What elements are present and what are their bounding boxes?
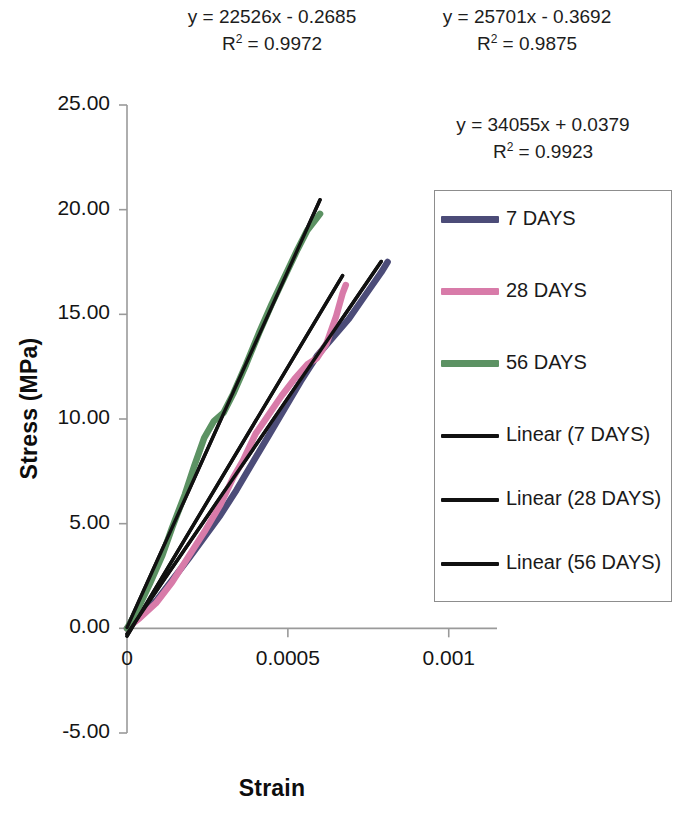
legend-item-label: Linear (7 DAYS) [506, 423, 650, 447]
legend-item[interactable]: 56 DAYS [441, 351, 667, 375]
legend-item[interactable]: Linear (56 DAYS) [441, 551, 667, 575]
legend-swatch-icon [441, 498, 499, 502]
x-axis-tick-label: 0.0005 [228, 646, 348, 670]
legend-item[interactable]: 7 DAYS [441, 207, 667, 231]
legend-item-label: 56 DAYS [506, 351, 587, 375]
chart-legend: 7 DAYS28 DAYS56 DAYSLinear (7 DAYS)Linea… [434, 190, 672, 602]
y-axis-tick-label: 20.00 [0, 196, 110, 220]
legend-swatch-icon [441, 562, 499, 566]
y-axis-tick-label: 0.00 [0, 614, 110, 638]
legend-item[interactable]: 28 DAYS [441, 279, 667, 303]
legend-item-label: 28 DAYS [506, 279, 587, 303]
series-line-28-days [127, 285, 346, 628]
legend-item-label: Linear (28 DAYS) [506, 487, 661, 511]
trendline-overlay-linear-28-days [127, 276, 343, 636]
y-axis-tick-label: -5.00 [0, 719, 110, 743]
y-axis-title: Stress (MPa) [16, 294, 43, 524]
legend-swatch-icon [441, 216, 499, 223]
x-axis-tick-label: 0 [67, 646, 187, 670]
series-layer [127, 200, 388, 636]
legend-swatch-icon [441, 288, 499, 295]
x-axis-title: Strain [127, 775, 417, 802]
legend-swatch-icon [441, 434, 499, 438]
trendline-overlay-linear-7-days [127, 261, 381, 634]
legend-swatch-icon [441, 360, 499, 367]
trendline-overlay-linear-56-days [127, 200, 320, 628]
y-axis-tick-label: 25.00 [0, 91, 110, 115]
legend-item[interactable]: Linear (7 DAYS) [441, 423, 667, 447]
legend-item-label: 7 DAYS [506, 207, 576, 231]
x-axis-tick-label: 0.001 [389, 646, 509, 670]
legend-item-label: Linear (56 DAYS) [506, 551, 661, 575]
legend-item[interactable]: Linear (28 DAYS) [441, 487, 667, 511]
